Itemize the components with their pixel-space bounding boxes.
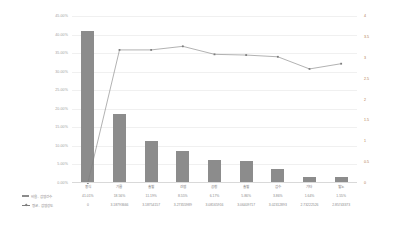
line-value-cell: 2.85743373 xyxy=(325,202,357,210)
right-axis-tick: 2.5 xyxy=(364,77,369,81)
line-value-cell: 2.73222526 xyxy=(294,202,326,210)
category-label: 기름 xyxy=(104,183,136,191)
right-value-axis: 00.511.522.533.54 xyxy=(360,16,390,183)
plot-area xyxy=(72,16,357,183)
right-axis-tick: 1.5 xyxy=(364,118,369,122)
right-axis-tick: 2 xyxy=(364,98,366,102)
line-value-cell: 3.08165916 xyxy=(199,202,231,210)
line-marker xyxy=(340,63,342,65)
line-series-name: 평균 - 감염강도 xyxy=(32,203,53,208)
bar-value-cell: 41.01% xyxy=(72,193,104,201)
line-value-cell: 3.27355989 xyxy=(167,202,199,210)
line-marker xyxy=(182,45,184,47)
left-value-axis: 0.00%5.00%10.00%15.00%20.00%25.00%30.00%… xyxy=(34,16,70,183)
bar-series-name: 비율 - 감염건수 xyxy=(31,194,52,199)
bar-swatch-icon xyxy=(22,195,29,197)
right-axis-tick: 1 xyxy=(364,139,366,143)
category-label: 중식 xyxy=(72,183,104,191)
bar-value-cell: 18.56% xyxy=(104,193,136,201)
category-label: 출혈 xyxy=(135,183,167,191)
line-marker xyxy=(150,49,152,51)
line-value-cell: 3.18793666 xyxy=(104,202,136,210)
category-label: 출혈 xyxy=(230,183,262,191)
line-marker xyxy=(309,68,311,70)
line-value-cell: 3.02312893 xyxy=(262,202,294,210)
left-axis-tick: 20.00% xyxy=(55,107,68,111)
table-row-bar-series: 비율 - 감염건수 41.01%18.56%11.19%8.55%6.17%5.… xyxy=(22,193,362,201)
right-axis-tick: 0.5 xyxy=(364,160,369,164)
right-axis-tick: 4 xyxy=(364,14,366,18)
bar-value-cell: 11.19% xyxy=(135,193,167,201)
category-label: 감수 xyxy=(262,183,294,191)
right-axis-tick: 0 xyxy=(364,181,366,185)
pareto-combo-chart: 0.00%5.00%10.00%15.00%20.00%25.00%30.00%… xyxy=(0,0,396,228)
line-value-cell: 0 xyxy=(72,202,104,210)
bar-value-cell: 3.86% xyxy=(262,193,294,201)
bar-value-cell: 6.17% xyxy=(199,193,231,201)
line-marker xyxy=(245,54,247,56)
left-axis-tick: 25.00% xyxy=(55,88,68,92)
table-row-categories: 중식기름출혈간염공청출혈감수기타혈노 xyxy=(22,183,362,191)
bar-value-cell: 1.64% xyxy=(294,193,326,201)
line-marker xyxy=(214,53,216,55)
line-swatch-icon xyxy=(22,204,30,207)
left-axis-tick: 40.00% xyxy=(55,33,68,37)
line-series xyxy=(72,16,357,183)
line-markers xyxy=(87,45,342,183)
line-marker xyxy=(119,49,121,51)
category-label: 공청 xyxy=(199,183,231,191)
category-label: 혈노 xyxy=(325,183,357,191)
right-axis-tick: 3.5 xyxy=(364,35,369,39)
left-axis-tick: 30.00% xyxy=(55,70,68,74)
bar-value-cell: 8.55% xyxy=(167,193,199,201)
chart-data-table: 중식기름출혈간염공청출혈감수기타혈노 비율 - 감염건수 41.01%18.56… xyxy=(22,183,362,213)
line-value-cell: 3.18754157 xyxy=(135,202,167,210)
legend-line-series[interactable]: 평균 - 감염강도 xyxy=(22,202,70,210)
left-axis-tick: 5.00% xyxy=(57,162,68,166)
line-marker xyxy=(277,56,279,58)
line-path xyxy=(88,46,341,183)
bar-value-cell: 5.86% xyxy=(230,193,262,201)
category-label: 기타 xyxy=(294,183,326,191)
table-row-line-series: 평균 - 감염강도 03.187936663.187541573.2735598… xyxy=(22,202,362,210)
left-axis-tick: 10.00% xyxy=(55,144,68,148)
left-axis-tick: 45.00% xyxy=(55,14,68,18)
category-label: 간염 xyxy=(167,183,199,191)
left-axis-tick: 15.00% xyxy=(55,125,68,129)
right-axis-tick: 3 xyxy=(364,56,366,60)
line-value-cell: 3.06409717 xyxy=(230,202,262,210)
legend-bar-series[interactable]: 비율 - 감염건수 xyxy=(22,193,70,201)
row-label-categories xyxy=(22,183,70,191)
bar-value-cell: 1.55% xyxy=(325,193,357,201)
left-axis-tick: 35.00% xyxy=(55,51,68,55)
